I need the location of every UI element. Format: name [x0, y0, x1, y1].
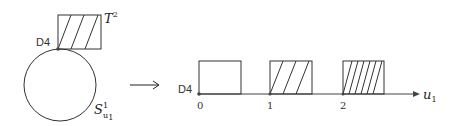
axis-label: u1 [423, 87, 436, 104]
torus-label: T2 [104, 10, 118, 26]
d4-label-left: D4 [36, 36, 50, 48]
box-0 [199, 61, 241, 94]
tick-point-1 [269, 93, 272, 96]
d4-label-right: D4 [178, 83, 192, 95]
circle-label: S1u1 [94, 101, 113, 122]
tick-1: 1 [267, 100, 273, 111]
map-arrow [130, 81, 159, 89]
circle-s1 [24, 49, 96, 121]
tick-0: 0 [197, 100, 203, 111]
tick-2: 2 [340, 100, 346, 111]
diagram-canvas: D4 T2 S1u1 u1 D4 0 1 2 [0, 0, 454, 126]
diagram: D4 T2 S1u1 u1 D4 0 1 2 [0, 0, 454, 126]
d4-point-right [197, 92, 201, 96]
torus-box [58, 15, 101, 49]
box-2 [343, 61, 384, 94]
tick-point-2 [342, 93, 345, 96]
d4-point-left [56, 47, 60, 51]
box-1 [270, 61, 312, 94]
